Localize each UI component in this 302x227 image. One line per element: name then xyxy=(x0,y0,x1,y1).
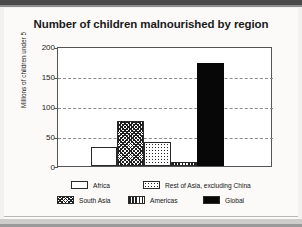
bar-rest-of-asia-excluding-china xyxy=(144,142,171,166)
bar-americas xyxy=(171,162,197,167)
legend-label-south-asia: South Asia xyxy=(79,197,111,204)
y-axis-tick-0: 0 xyxy=(24,163,55,172)
legend-row-2: South Asia Americas Global xyxy=(57,194,272,206)
chart-title: Number of children malnourished by regio… xyxy=(4,18,298,30)
page-divider xyxy=(4,216,298,217)
legend-label-global: Global xyxy=(225,197,244,204)
legend-item-africa: Africa xyxy=(71,179,110,191)
y-tick-mark-100 xyxy=(54,108,58,109)
y-tick-mark-50 xyxy=(54,138,58,139)
chart-legend: Africa Rest of Asia, excluding China Sou… xyxy=(57,179,272,209)
legend-item-south-asia: South Asia xyxy=(57,194,111,206)
plot-area xyxy=(57,47,272,167)
y-axis-tick-200: 200 xyxy=(24,43,55,52)
screenshot-page: Number of children malnourished by regio… xyxy=(0,0,302,227)
legend-label-africa: Africa xyxy=(93,182,110,189)
bar-africa xyxy=(91,147,117,166)
legend-item-rest-of-asia: Rest of Asia, excluding China xyxy=(143,179,251,191)
y-axis-tick-150: 150 xyxy=(24,73,55,82)
scan-artifact-top-band-secondary xyxy=(0,5,302,7)
gridline-100 xyxy=(58,108,273,109)
y-axis-tick-100: 100 xyxy=(24,103,55,112)
legend-label-americas: Americas xyxy=(150,197,177,204)
bar-south-asia xyxy=(117,121,144,166)
chart-figure: Number of children malnourished by regio… xyxy=(4,8,298,220)
legend-label-rest-of-asia: Rest of Asia, excluding China xyxy=(165,182,251,189)
y-tick-mark-200 xyxy=(54,48,58,49)
y-axis-tick-50: 50 xyxy=(24,133,55,142)
y-tick-mark-0 xyxy=(54,167,58,168)
scan-artifact-bottom-band xyxy=(0,224,302,227)
legend-swatch-americas-icon xyxy=(128,196,145,204)
bar-global xyxy=(197,63,224,166)
legend-swatch-africa-icon xyxy=(71,181,88,189)
y-axis-tick-labels: 200 150 100 50 0 xyxy=(24,41,55,173)
legend-item-global: Global xyxy=(203,194,244,206)
legend-swatch-rest-of-asia-icon xyxy=(143,181,160,189)
legend-swatch-south-asia-icon xyxy=(57,196,74,204)
gridline-50 xyxy=(58,138,273,139)
legend-item-americas: Americas xyxy=(128,194,177,206)
legend-swatch-global-icon xyxy=(203,196,220,204)
gridline-150 xyxy=(58,78,273,79)
legend-row-1: Africa Rest of Asia, excluding China xyxy=(57,179,272,191)
y-tick-mark-150 xyxy=(54,78,58,79)
